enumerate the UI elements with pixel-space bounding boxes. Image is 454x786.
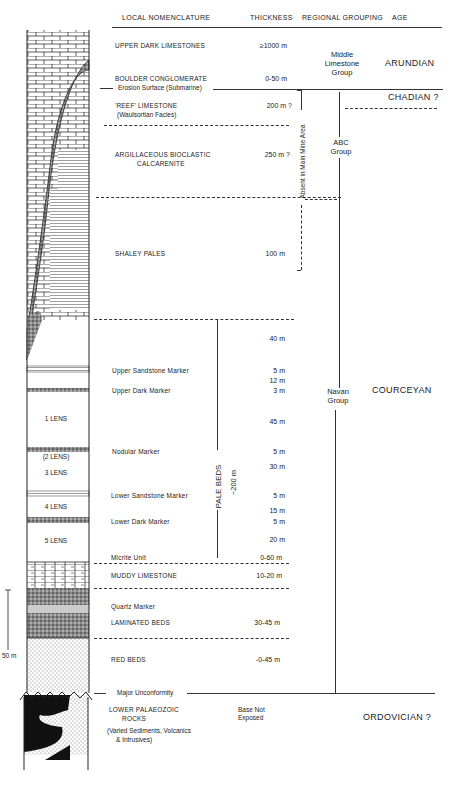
unit-lower-palaeozoic-sub: ROCKS <box>122 715 146 722</box>
pale-beds-thickness: ~200 m <box>229 453 238 513</box>
thickness-upper-dark: ≥1000 m <box>227 42 287 49</box>
lens-1: 1 LENS <box>24 415 88 422</box>
absent-bracket-line-top <box>301 90 302 110</box>
base-not: Base Not <box>238 706 265 713</box>
abc-line1: ABC <box>324 138 358 147</box>
abc-line2: Group <box>324 147 358 156</box>
middle-line3: Group <box>320 68 364 77</box>
abc-base-dash <box>305 199 337 200</box>
thickness-20m: 20 m <box>225 536 285 543</box>
unit-muddy-limestone: MUDDY LIMESTONE <box>111 572 177 579</box>
thickness-5m-d: 5 m <box>225 518 285 525</box>
unit-argillaceous: ARGILLACEOUS BIOCLASTIC <box>115 151 211 158</box>
abc-line-top <box>339 92 340 137</box>
unit-upper-dark-limestones: UPPER DARK LIMESTONES <box>115 42 205 49</box>
absent-bracket-bottom <box>297 270 301 271</box>
thickness-45m: 45 m <box>225 418 285 425</box>
unit-lower-dark-marker: Lower Dark Marker <box>111 518 170 525</box>
unit-laminated-beds: LAMINATED BEDS <box>111 619 170 626</box>
chadian-base-dash <box>345 108 437 109</box>
lithology-column <box>0 0 100 786</box>
unit-nodular-marker: Nodular Marker <box>112 448 160 455</box>
middle-line1: Middle <box>320 50 364 59</box>
thickness-boulder: 0-50 m <box>227 75 287 82</box>
navan-line-top <box>339 158 340 388</box>
erosion-surface-label: Erosion Surface (Submarine) <box>118 84 202 91</box>
age-ordovician: ORDOVICIAN ? <box>363 712 431 722</box>
absent-bracket-line-bottom <box>301 205 302 270</box>
middle-line2: Limestone <box>320 59 364 68</box>
unit-upper-sandstone-marker: Upper Sandstone Marker <box>112 367 189 374</box>
age-courceyan: COURCEYAN <box>372 385 432 395</box>
boundary-muddy <box>94 588 289 589</box>
thickness-3m: 3 m <box>225 387 285 394</box>
boundary-reef <box>104 125 289 126</box>
unit-lower-palaeozoic: LOWER PALAEOZOIC <box>109 706 179 713</box>
thickness-12m: 12 m <box>225 377 285 384</box>
unit-reef-sub: (Waulsortian Facies) <box>117 111 176 118</box>
abc-group: ABC Group <box>324 138 358 156</box>
lens-5: 5 LENS <box>24 537 88 544</box>
thickness-5m-a: 5 m <box>225 367 285 374</box>
absent-label: Absent in Main Mine Area <box>299 119 306 205</box>
middle-limestone-group: Middle Limestone Group <box>320 50 364 77</box>
navan-line2: Group <box>318 396 358 405</box>
pale-beds-label: PALE BEDS <box>214 457 223 517</box>
major-unconformity-label: Major Unconformity <box>117 689 173 696</box>
header-nomenclature: LOCAL NOMENCLATURE <box>122 14 210 21</box>
thickness-40m: 40 m <box>225 335 285 342</box>
thickness-muddy: 10-20 m <box>222 572 282 579</box>
header-age: AGE <box>392 14 408 21</box>
thickness-shaley: 100 m <box>225 250 285 257</box>
boundary-micrite <box>94 563 289 564</box>
erosion-tick-left <box>100 88 113 89</box>
unit-upper-dark-marker: Upper Dark Marker <box>112 387 171 394</box>
pale-beds-line-bottom <box>217 510 218 558</box>
unit-red-beds: RED BEDS <box>111 656 146 663</box>
unit-micrite: Micrite Unit <box>111 554 146 561</box>
unconformity-tick <box>94 693 106 694</box>
boundary-shaley <box>94 319 294 320</box>
scale-label: 50 m <box>2 652 16 659</box>
header-rule <box>112 27 442 28</box>
lower-palaeozoic-note1: (Varied Sediments, Volcanics <box>107 727 191 734</box>
unit-lower-sandstone-marker: Lower Sandstone Marker <box>111 492 188 499</box>
thickness-micrite: 0-60 m <box>222 554 282 561</box>
pale-beds-line-top <box>217 320 218 450</box>
navan-line1: Navan <box>318 387 358 396</box>
age-chadian: CHADIAN ? <box>388 92 439 102</box>
lens-3: 3 LENS <box>24 469 88 476</box>
thickness-reef: 200 m ? <box>232 102 292 109</box>
age-arundian: ARUNDIAN <box>385 58 434 68</box>
unit-quartz-marker: Quartz Marker <box>111 603 155 610</box>
lower-palaeozoic-note2: & Intrusives) <box>116 736 152 743</box>
lens-2: (2 LENS) <box>24 453 88 460</box>
unit-argillaceous-sub: CALCARENITE <box>137 160 185 167</box>
unconformity-line <box>187 693 435 694</box>
header-thickness: THICKNESS <box>250 14 293 21</box>
lens-4: 4 LENS <box>24 503 88 510</box>
thickness-argillaceous: 250 m ? <box>230 151 290 158</box>
unit-reef-limestone: 'REEF' LIMESTONE <box>115 102 177 109</box>
boundary-laminated <box>94 638 289 639</box>
navan-line-bottom <box>335 410 336 693</box>
erosion-surface-line <box>213 89 443 90</box>
header-regional-grouping: REGIONAL GROUPING <box>302 14 383 21</box>
unit-shaley-pales: SHALEY PALES <box>115 250 165 257</box>
base-exposed: Exposed <box>238 714 263 721</box>
thickness-red-beds: -0-45 m <box>220 656 280 663</box>
thickness-laminated: 30-45 m <box>220 619 280 626</box>
navan-group: Navan Group <box>318 387 358 405</box>
unit-boulder-conglomerate: BOULDER CONGLOMERATE <box>115 75 207 82</box>
